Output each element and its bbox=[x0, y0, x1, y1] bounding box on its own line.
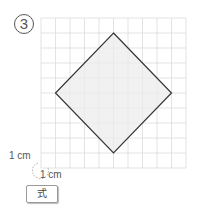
rhombus-grid-figure bbox=[0, 0, 200, 214]
rhombus-shape bbox=[56, 33, 172, 153]
unit-label-horizontal: 1 cm bbox=[40, 169, 62, 180]
unit-label-vertical: 1 cm bbox=[9, 150, 31, 161]
formula-label-box: 式 bbox=[26, 185, 58, 203]
